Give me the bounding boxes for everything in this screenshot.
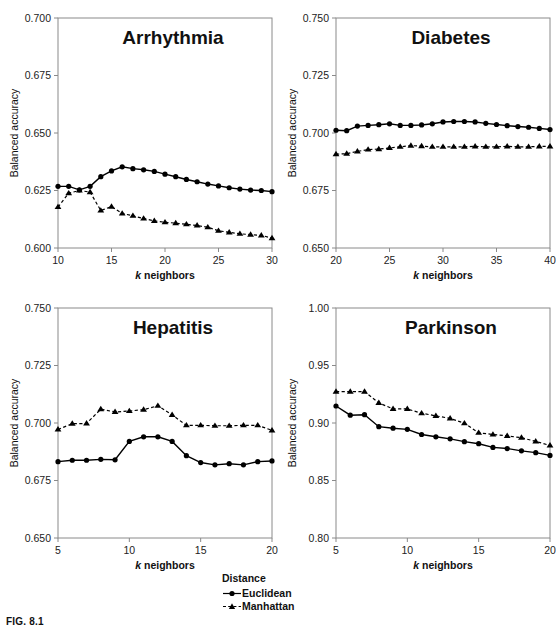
- series-line-euclidean-hepatitis: [58, 437, 272, 465]
- x-tick-label-parkinson-3: 20: [544, 544, 556, 556]
- data-point-manhattan-diabetes-6: [397, 143, 404, 148]
- chart-svg-diabetes: 0.6500.6750.7000.7250.7502025303540Balan…: [278, 0, 556, 285]
- x-tick-label-diabetes-0: 20: [330, 254, 342, 266]
- plot-frame-diabetes: [336, 18, 550, 248]
- plot-frame-arrhythmia: [58, 18, 272, 248]
- y-tick-label-arrhythmia-2: 0.650: [25, 127, 51, 139]
- data-point-manhattan-hepatitis-1: [69, 420, 76, 425]
- data-point-euclidean-diabetes-1: [344, 128, 349, 133]
- data-point-euclidean-parkinson-3: [376, 424, 381, 429]
- data-point-euclidean-diabetes-20: [547, 127, 552, 132]
- data-point-euclidean-hepatitis-14: [255, 459, 260, 464]
- plot-area-parkinson: 0.800.850.900.951.005101520Balanced accu…: [286, 302, 556, 571]
- data-point-manhattan-diabetes-11: [450, 143, 457, 148]
- data-point-euclidean-hepatitis-8: [170, 439, 175, 444]
- y-tick-label-parkinson-4: 1.00: [309, 302, 330, 314]
- x-axis-label-neighbors-hepatitis: neighbors: [141, 559, 195, 571]
- y-tick-label-diabetes-4: 0.750: [303, 12, 329, 24]
- chart-title-parkinson: Parkinson: [405, 317, 497, 338]
- plot-area-diabetes: 0.6500.6750.7000.7250.7502025303540Balan…: [286, 12, 556, 281]
- data-point-euclidean-hepatitis-4: [112, 457, 117, 462]
- chart-panel-arrhythmia: 0.6000.6250.6500.6750.7001015202530Balan…: [0, 0, 278, 285]
- data-point-euclidean-arrhythmia-18: [248, 187, 253, 192]
- data-point-euclidean-arrhythmia-19: [259, 188, 264, 193]
- data-point-euclidean-diabetes-10: [440, 119, 445, 124]
- data-point-manhattan-diabetes-8: [418, 143, 425, 148]
- y-axis-label-diabetes: Balanced accuracy: [286, 88, 298, 177]
- y-tick-label-parkinson-3: 0.95: [309, 359, 330, 371]
- data-point-euclidean-arrhythmia-4: [98, 174, 103, 179]
- x-tick-label-parkinson-0: 5: [333, 544, 339, 556]
- y-tick-label-arrhythmia-1: 0.625: [25, 184, 51, 196]
- data-point-manhattan-arrhythmia-19: [258, 232, 265, 237]
- data-point-euclidean-diabetes-3: [366, 123, 371, 128]
- y-tick-label-hepatitis-2: 0.700: [25, 417, 51, 429]
- data-point-manhattan-parkinson-3: [375, 400, 382, 405]
- data-point-euclidean-parkinson-15: [547, 453, 552, 458]
- data-point-manhattan-hepatitis-10: [197, 422, 204, 427]
- x-tick-label-hepatitis-1: 10: [123, 544, 135, 556]
- data-point-euclidean-arrhythmia-15: [216, 183, 221, 188]
- data-point-manhattan-parkinson-12: [504, 433, 511, 438]
- plot-frame-hepatitis: [58, 308, 272, 538]
- data-point-euclidean-diabetes-5: [387, 121, 392, 126]
- data-point-manhattan-diabetes-7: [408, 142, 415, 147]
- chart-title-hepatitis: Hepatitis: [133, 317, 213, 338]
- x-tick-label-arrhythmia-1: 15: [106, 254, 118, 266]
- y-tick-label-hepatitis-3: 0.725: [25, 359, 51, 371]
- data-point-manhattan-parkinson-6: [418, 410, 425, 415]
- data-point-euclidean-diabetes-12: [462, 119, 467, 124]
- y-tick-label-diabetes-2: 0.700: [303, 127, 329, 139]
- data-point-euclidean-arrhythmia-9: [152, 169, 157, 174]
- y-tick-label-arrhythmia-3: 0.675: [25, 69, 51, 81]
- data-point-manhattan-parkinson-0: [333, 388, 340, 393]
- data-point-euclidean-hepatitis-6: [141, 434, 146, 439]
- data-point-euclidean-diabetes-16: [505, 123, 510, 128]
- plot-area-hepatitis: 0.6500.6750.7000.7250.7505101520Balanced…: [8, 302, 278, 571]
- data-point-euclidean-hepatitis-5: [127, 439, 132, 444]
- data-point-euclidean-diabetes-15: [494, 122, 499, 127]
- data-point-manhattan-parkinson-15: [547, 442, 554, 447]
- data-point-euclidean-arrhythmia-10: [162, 172, 167, 177]
- x-axis-label-diabetes: k neighbors: [413, 269, 473, 281]
- data-point-euclidean-parkinson-6: [419, 432, 424, 437]
- series-line-euclidean-parkinson: [336, 406, 550, 455]
- data-point-euclidean-diabetes-8: [419, 122, 424, 127]
- data-point-manhattan-diabetes-16: [504, 143, 511, 148]
- y-tick-label-parkinson-1: 0.85: [309, 474, 330, 486]
- data-point-euclidean-hepatitis-10: [198, 460, 203, 465]
- data-point-euclidean-diabetes-13: [473, 119, 478, 124]
- data-point-manhattan-parkinson-9: [461, 420, 468, 425]
- data-point-manhattan-parkinson-2: [361, 388, 368, 393]
- legend-label-manhattan: Manhattan: [242, 600, 295, 613]
- y-tick-label-parkinson-0: 0.80: [309, 532, 330, 544]
- data-point-manhattan-hepatitis-3: [97, 406, 104, 411]
- y-axis-label-arrhythmia: Balanced accuracy: [8, 88, 20, 177]
- chart-panel-parkinson: 0.800.850.900.951.005101520Balanced accu…: [278, 290, 556, 575]
- data-point-euclidean-diabetes-17: [515, 124, 520, 129]
- figure-caption: FIG. 8.1: [6, 616, 44, 627]
- data-point-euclidean-diabetes-19: [537, 126, 542, 131]
- data-point-euclidean-parkinson-13: [519, 448, 524, 453]
- data-point-manhattan-arrhythmia-18: [247, 231, 254, 236]
- data-point-euclidean-parkinson-4: [390, 426, 395, 431]
- chart-panel-diabetes: 0.6500.6750.7000.7250.7502025303540Balan…: [278, 0, 556, 285]
- data-point-manhattan-hepatitis-2: [83, 420, 90, 425]
- data-point-euclidean-hepatitis-3: [98, 457, 103, 462]
- y-tick-label-hepatitis-1: 0.675: [25, 474, 51, 486]
- x-tick-label-diabetes-1: 25: [384, 254, 396, 266]
- data-point-manhattan-arrhythmia-5: [108, 203, 115, 208]
- data-point-manhattan-arrhythmia-8: [140, 215, 147, 220]
- data-point-euclidean-parkinson-10: [476, 441, 481, 446]
- data-point-euclidean-diabetes-9: [430, 121, 435, 126]
- data-point-euclidean-arrhythmia-0: [55, 184, 60, 189]
- data-point-euclidean-parkinson-9: [462, 439, 467, 444]
- data-point-euclidean-arrhythmia-1: [66, 184, 71, 189]
- data-point-euclidean-arrhythmia-8: [141, 167, 146, 172]
- y-tick-label-hepatitis-4: 0.750: [25, 302, 51, 314]
- data-point-euclidean-hepatitis-1: [70, 458, 75, 463]
- data-point-euclidean-diabetes-14: [483, 121, 488, 126]
- data-point-manhattan-arrhythmia-6: [119, 210, 126, 215]
- data-point-euclidean-parkinson-7: [433, 434, 438, 439]
- data-point-manhattan-hepatitis-7: [154, 402, 161, 407]
